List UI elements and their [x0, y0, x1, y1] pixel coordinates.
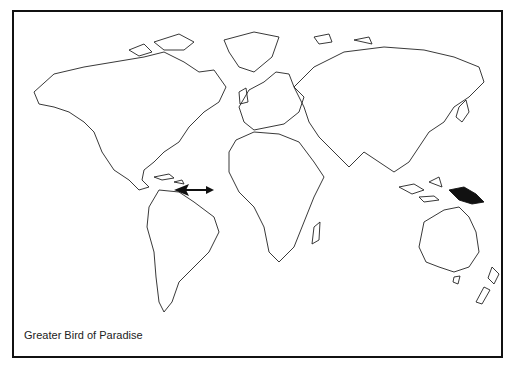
madagascar-outline — [312, 222, 320, 244]
australia-outline — [419, 207, 479, 272]
north-america-outline — [34, 52, 226, 190]
caribbean-islands-outline — [154, 174, 184, 184]
south-america-outline — [147, 190, 219, 312]
siberian-islands-outline — [314, 34, 372, 44]
location-arrow-icon — [174, 184, 214, 196]
greenland-outline — [224, 32, 279, 72]
world-map — [14, 12, 501, 356]
map-caption: Greater Bird of Paradise — [24, 329, 143, 341]
japan-outline — [456, 100, 469, 122]
europe-outline — [239, 72, 304, 130]
asia-outline — [294, 47, 484, 172]
map-frame: Greater Bird of Paradise — [12, 10, 503, 358]
africa-outline — [229, 132, 324, 262]
tasmania-outline — [453, 276, 460, 284]
indonesia-outline — [399, 177, 442, 202]
new-zealand-outline — [476, 267, 499, 304]
new-guinea-highlight — [449, 187, 484, 204]
uk-outline — [239, 88, 248, 104]
